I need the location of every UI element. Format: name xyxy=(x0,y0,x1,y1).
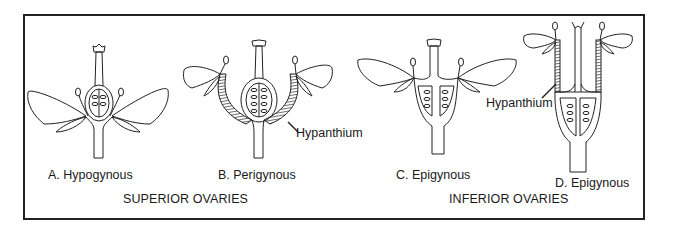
flower-a-hypogynous xyxy=(28,44,169,158)
label-a-hypogynous: A. Hypogynous xyxy=(48,168,133,182)
group-label-inferior-ovaries: INFERIOR OVARIES xyxy=(449,192,568,206)
flower-b-perigynous xyxy=(183,40,332,158)
annotation-hypanthium-b: Hypanthium xyxy=(296,126,363,140)
label-b-perigynous: B. Perigynous xyxy=(218,168,296,182)
label-d-epigynous: D. Epigynous xyxy=(555,176,629,190)
flower-diagrams xyxy=(0,0,674,236)
annotation-hypanthium-d: Hypanthium xyxy=(486,96,553,110)
label-c-epigynous: C. Epigynous xyxy=(396,168,470,182)
group-label-superior-ovaries: SUPERIOR OVARIES xyxy=(123,192,248,206)
